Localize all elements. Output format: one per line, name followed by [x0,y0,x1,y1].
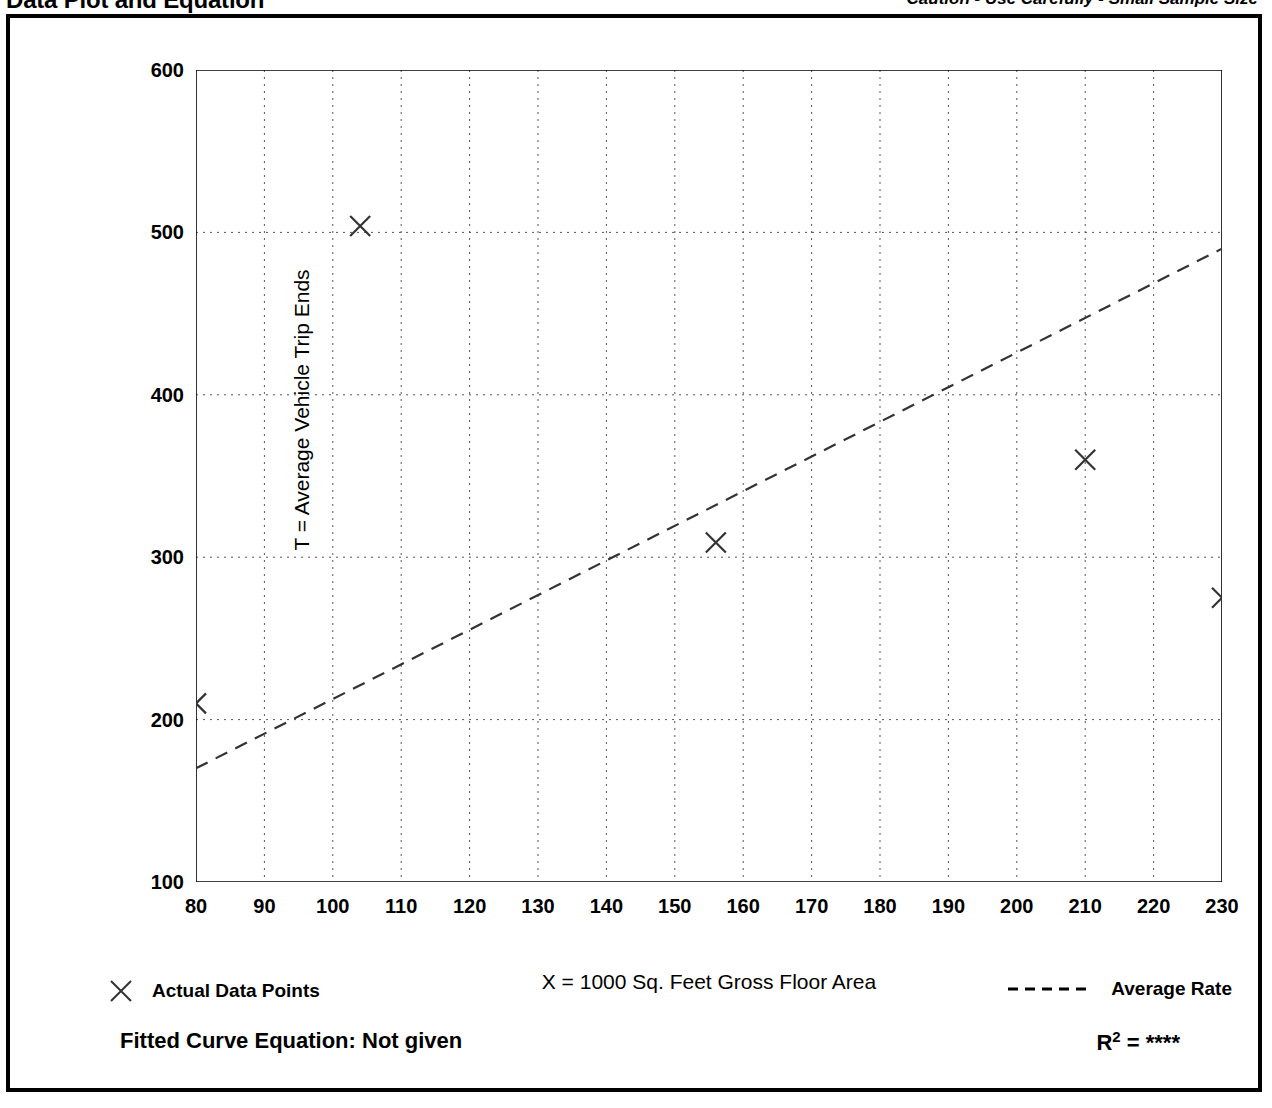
plot-container: T = Average Vehicle Trip Ends X = 1000 S… [196,70,1222,882]
legend-entry-data-points: Actual Data Points [108,978,320,1004]
chart-footer: Fitted Curve Equation: Not given R2 = **… [10,1028,1258,1078]
data-point-markers [196,216,1222,713]
page-title: Data Plot and Equation [6,0,264,14]
r2-exponent: 2 [1112,1028,1120,1045]
x-tick-label: 160 [713,896,773,916]
x-tick-label: 200 [987,896,1047,916]
x-tick-label: 100 [303,896,363,916]
legend-entry-average-rate: Average Rate [1007,978,1232,1000]
x-tick-label: 230 [1192,896,1252,916]
x-tick-label: 190 [918,896,978,916]
y-tick-label: 400 [104,385,184,405]
x-tick-label: 150 [645,896,705,916]
chart-svg [196,70,1222,882]
y-tick-label: 300 [104,547,184,567]
x-tick-label: 90 [234,896,294,916]
legend-label-average-rate: Average Rate [1111,978,1232,1000]
chart-legend: Actual Data Points Average Rate [10,978,1258,1024]
y-tick-label: 100 [104,872,184,892]
grid-lines [196,70,1222,882]
r2-number: = **** [1127,1030,1180,1055]
dashed-line-icon [1007,984,1089,994]
r-squared-value: R2 = **** [1096,1028,1180,1056]
chart-frame: T = Average Vehicle Trip Ends X = 1000 S… [6,14,1262,1092]
r2-prefix: R [1096,1030,1112,1055]
x-tick-label: 220 [1124,896,1184,916]
x-tick-label: 210 [1055,896,1115,916]
x-tick-label: 120 [440,896,500,916]
x-tick-label: 130 [508,896,568,916]
axis-ticks [196,70,1222,882]
legend-label-data-points: Actual Data Points [152,980,320,1002]
x-tick-label: 80 [166,896,226,916]
x-marker-icon [108,978,134,1004]
x-tick-label: 180 [850,896,910,916]
y-tick-label: 500 [104,222,184,242]
axis-lines [196,70,1222,882]
plot-area [196,70,1222,882]
y-tick-label: 200 [104,710,184,730]
page-header: Data Plot and Equation Caution - Use Car… [0,0,1272,14]
x-tick-label: 170 [782,896,842,916]
fitted-curve-equation: Fitted Curve Equation: Not given [120,1028,462,1054]
average-rate-line [196,249,1222,769]
x-tick-label: 110 [371,896,431,916]
x-tick-label: 140 [576,896,636,916]
y-tick-label: 600 [104,60,184,80]
caution-note: Caution - Use Carefully - Small Sample S… [907,0,1258,9]
